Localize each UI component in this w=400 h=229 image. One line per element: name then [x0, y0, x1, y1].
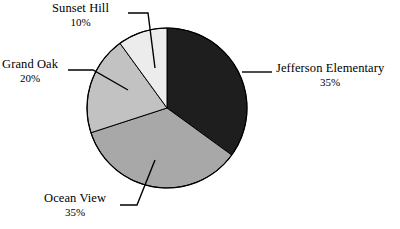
callout-value-jefferson-elementary: 35% — [276, 77, 384, 89]
callout-value-ocean-view: 35% — [44, 207, 106, 219]
callout-grand-oak: Grand Oak 20% — [2, 58, 58, 84]
callout-label-grand-oak: Grand Oak — [2, 58, 58, 72]
callout-value-grand-oak: 20% — [2, 73, 58, 85]
callout-label-sunset-hill: Sunset Hill — [52, 2, 109, 16]
callout-jefferson-elementary: Jefferson Elementary 35% — [276, 62, 384, 88]
callout-ocean-view: Ocean View 35% — [44, 192, 106, 218]
callout-label-jefferson-elementary: Jefferson Elementary — [276, 62, 384, 76]
callout-sunset-hill: Sunset Hill 10% — [52, 2, 109, 28]
callout-value-sunset-hill: 10% — [52, 17, 109, 29]
pie-chart-figure: Jefferson Elementary 35% Ocean View 35% … — [0, 0, 400, 229]
callout-label-ocean-view: Ocean View — [44, 192, 106, 206]
